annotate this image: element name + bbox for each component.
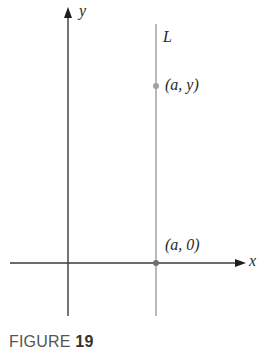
line-label: L: [163, 29, 172, 45]
point-label-a-y: (a, y): [165, 77, 199, 93]
caption-prefix: FIGURE: [9, 333, 71, 350]
x-axis-arrow-icon: [235, 259, 246, 267]
point-a-y: [153, 83, 159, 89]
x-axis-label: x: [249, 253, 256, 269]
caption-number: 19: [75, 333, 93, 350]
coordinate-diagram: [0, 0, 260, 357]
figure-caption: FIGURE 19: [9, 333, 94, 351]
y-axis-label: y: [79, 3, 86, 19]
y-axis-arrow-icon: [64, 7, 72, 18]
point-a-0: [153, 260, 159, 266]
point-label-a-0: (a, 0): [165, 237, 200, 253]
